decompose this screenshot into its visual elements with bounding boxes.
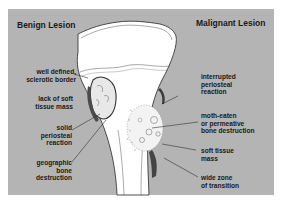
label-lack-of-soft-tissue-mass: lack of soft tissue mass	[35, 95, 73, 110]
label-well-defined-border: well defined, sclerotic border	[26, 68, 76, 83]
label-solid-periosteal-reaction: solid periosteal reaction	[41, 124, 72, 147]
malignant-lesion-title: Malignant Lesion	[196, 18, 265, 28]
label-moth-eaten-destruction: moth-eaten or permeative bone destructio…	[201, 112, 254, 135]
label-wide-zone-of-transition: wide zone of transition	[201, 174, 239, 189]
label-soft-tissue-mass: soft tissue mass	[201, 147, 234, 162]
benign-lesion-title: Benign Lesion	[17, 20, 76, 30]
label-geographic-bone-destruction: geographic bone destruction	[36, 159, 72, 182]
label-interrupted-periosteal-reaction: interrupted periosteal reaction	[201, 73, 236, 96]
